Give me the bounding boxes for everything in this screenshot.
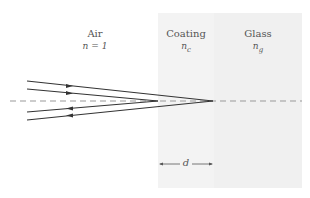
coating-label: Coating nc	[158, 28, 214, 56]
air-name: Air	[70, 28, 120, 40]
glass-index: ng	[230, 40, 286, 56]
dimension-arrow-right-icon	[209, 163, 213, 166]
glass-label: Glass ng	[230, 28, 286, 56]
coating-name: Coating	[158, 28, 214, 40]
air-label: Air n = 1	[70, 28, 120, 52]
glass-name: Glass	[230, 28, 286, 40]
arrow-icon	[66, 107, 73, 111]
coating-index: nc	[158, 40, 214, 56]
air-index: n = 1	[70, 40, 120, 52]
dimension-arrow-left-icon	[159, 163, 163, 166]
arrow-icon	[66, 84, 73, 88]
arrow-icon	[66, 114, 73, 118]
thickness-label: d	[180, 157, 192, 169]
